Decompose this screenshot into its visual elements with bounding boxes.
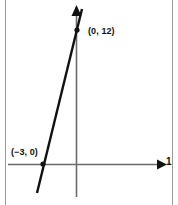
point-x-intercept — [40, 161, 45, 166]
point-y-intercept — [74, 27, 79, 32]
label-x-axis-tick: 1 — [166, 157, 172, 167]
graph-figure: (0, 12) (−3, 0) 1 — [0, 0, 178, 205]
label-y-intercept: (0, 12) — [88, 27, 115, 36]
label-x-intercept: (−3, 0) — [11, 148, 38, 157]
